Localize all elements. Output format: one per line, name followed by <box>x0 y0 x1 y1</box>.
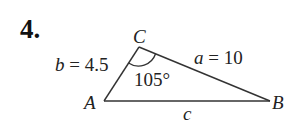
vertex-label-b: B <box>272 92 284 113</box>
side-a-label: a = 10 <box>194 47 243 68</box>
side-b-value: = 4.5 <box>65 54 109 75</box>
side-b-var: b <box>55 54 65 75</box>
vertex-label-c: C <box>133 26 146 47</box>
side-c-label: c <box>183 103 192 124</box>
triangle-edges <box>104 47 270 101</box>
triangle-diagram: C A B b = 4.5 a = 10 105° c <box>0 0 291 131</box>
vertex-label-a: A <box>82 92 96 113</box>
side-a-value: = 10 <box>204 47 243 68</box>
angle-c-label: 105° <box>134 69 170 90</box>
side-a-var: a <box>194 47 204 68</box>
side-b-label: b = 4.5 <box>55 54 108 75</box>
